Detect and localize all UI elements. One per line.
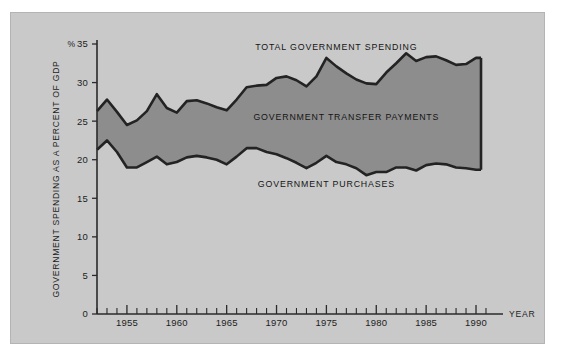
x-tick-label: 1965: [216, 317, 238, 328]
x-tick-label: 1970: [266, 317, 288, 328]
y-tick-label: 15: [77, 193, 88, 204]
x-tick-label: 1985: [415, 317, 437, 328]
y-tick-label: 25: [77, 116, 88, 127]
y-tick-label: 0: [83, 308, 88, 319]
government-purchases-label: GOVERNMENT PURCHASES: [258, 179, 395, 189]
x-tick-label: 1960: [166, 317, 188, 328]
y-axis-caption: GOVERNMENT SPENDING AS A PERCENT OF GDP: [51, 60, 61, 297]
x-tick-label: 1975: [315, 317, 337, 328]
figure-container: 05101520253035%1955196019651970197519801…: [0, 0, 567, 361]
x-tick-label: 1980: [365, 317, 387, 328]
x-tick-label: 1955: [116, 317, 138, 328]
government-transfer-payments-label: GOVERNMENT TRANSFER PAYMENTS: [253, 112, 439, 122]
y-tick-label: 10: [77, 231, 88, 242]
y-axis-unit-symbol: %: [67, 39, 75, 49]
x-tick-label: 1990: [465, 317, 487, 328]
chart-panel: 05101520253035%1955196019651970197519801…: [10, 12, 545, 344]
y-tick-label: 35: [77, 38, 88, 49]
total-government-spending-label: TOTAL GOVERNMENT SPENDING: [255, 42, 417, 52]
y-tick-label: 5: [83, 270, 88, 281]
chart-plot: 05101520253035%1955196019651970197519801…: [11, 13, 546, 345]
y-tick-label: 20: [77, 154, 88, 165]
y-tick-label: 30: [77, 77, 88, 88]
x-axis-caption: YEAR: [509, 309, 535, 319]
